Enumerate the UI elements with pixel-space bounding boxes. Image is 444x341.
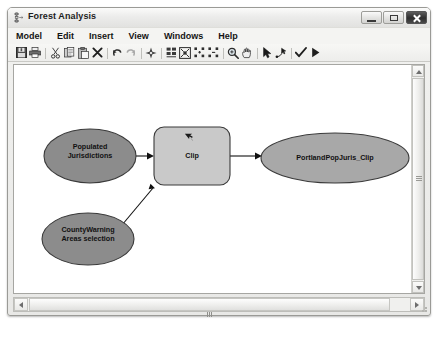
pan-icon[interactable] [240, 45, 254, 60]
scroll-up-button[interactable] [412, 65, 424, 77]
title-bar[interactable]: Forest Analysis [8, 8, 430, 28]
menu-item-edit[interactable]: Edit [56, 30, 75, 42]
toolbar [8, 44, 430, 62]
vertical-scrollbar-thumb[interactable] [412, 78, 424, 280]
zoom-out-fixed-icon[interactable] [206, 45, 220, 60]
horizontal-scrollbar-thumb[interactable] [29, 298, 390, 311]
scrollbar-grip [207, 303, 213, 309]
copy-icon[interactable] [62, 45, 76, 60]
window-title: Forest Analysis [28, 11, 96, 21]
select-icon[interactable] [260, 45, 274, 60]
maximize-button[interactable] [383, 11, 404, 24]
connector-populated-to-clip [136, 152, 154, 159]
paste-icon[interactable] [76, 45, 90, 60]
model-builder-icon [14, 12, 25, 23]
scrollbar-grip [416, 176, 422, 182]
run-icon[interactable] [308, 45, 322, 60]
validate-icon[interactable] [294, 45, 308, 60]
chevron-down-icon [416, 286, 422, 290]
chevron-up-icon [416, 70, 422, 74]
menu-item-help[interactable]: Help [217, 30, 239, 42]
cut-icon[interactable] [48, 45, 62, 60]
scroll-down-button[interactable] [412, 281, 424, 293]
full-extent-icon[interactable] [178, 45, 192, 60]
model-node-countywarning-areas-selection[interactable] [42, 213, 134, 265]
minimize-button[interactable] [361, 11, 382, 24]
menu-item-model[interactable]: Model [15, 30, 43, 42]
undo-icon[interactable] [110, 45, 124, 60]
print-icon[interactable] [28, 45, 42, 60]
connect-icon[interactable] [274, 45, 288, 60]
connector-clip-to-output [230, 152, 262, 159]
menu-item-windows[interactable]: Windows [163, 30, 204, 42]
menu-item-insert[interactable]: Insert [88, 30, 115, 42]
horizontal-scrollbar[interactable] [13, 297, 425, 312]
zoom-icon[interactable] [226, 45, 240, 60]
delete-icon[interactable] [90, 45, 104, 60]
model-diagram [14, 65, 411, 293]
model-canvas[interactable]: Populated Jurisdictions Clip PortlandPop… [14, 65, 411, 293]
model-node-populated-jurisdictions[interactable] [44, 129, 136, 183]
menu-item-view[interactable]: View [128, 30, 150, 42]
redo-icon[interactable] [124, 45, 138, 60]
add-data-icon[interactable] [144, 45, 158, 60]
model-node-portlandpopjuris-clip[interactable] [261, 133, 409, 183]
chevron-left-icon [19, 302, 23, 308]
auto-layout-icon[interactable] [164, 45, 178, 60]
save-icon[interactable] [14, 45, 28, 60]
menu-bar: Model Edit Insert View Windows Help [8, 28, 430, 44]
model-canvas-frame: Populated Jurisdictions Clip PortlandPop… [13, 64, 425, 294]
scroll-left-button[interactable] [14, 298, 28, 311]
connector-countywarning-to-clip [122, 184, 155, 225]
model-node-clip[interactable] [154, 127, 230, 185]
model-builder-window: Forest Analysis Model Edit Insert View W… [7, 7, 431, 316]
zoom-in-fixed-icon[interactable] [192, 45, 206, 60]
vertical-scrollbar[interactable] [411, 65, 424, 293]
resize-grip[interactable] [418, 303, 428, 313]
close-button[interactable] [406, 11, 427, 24]
